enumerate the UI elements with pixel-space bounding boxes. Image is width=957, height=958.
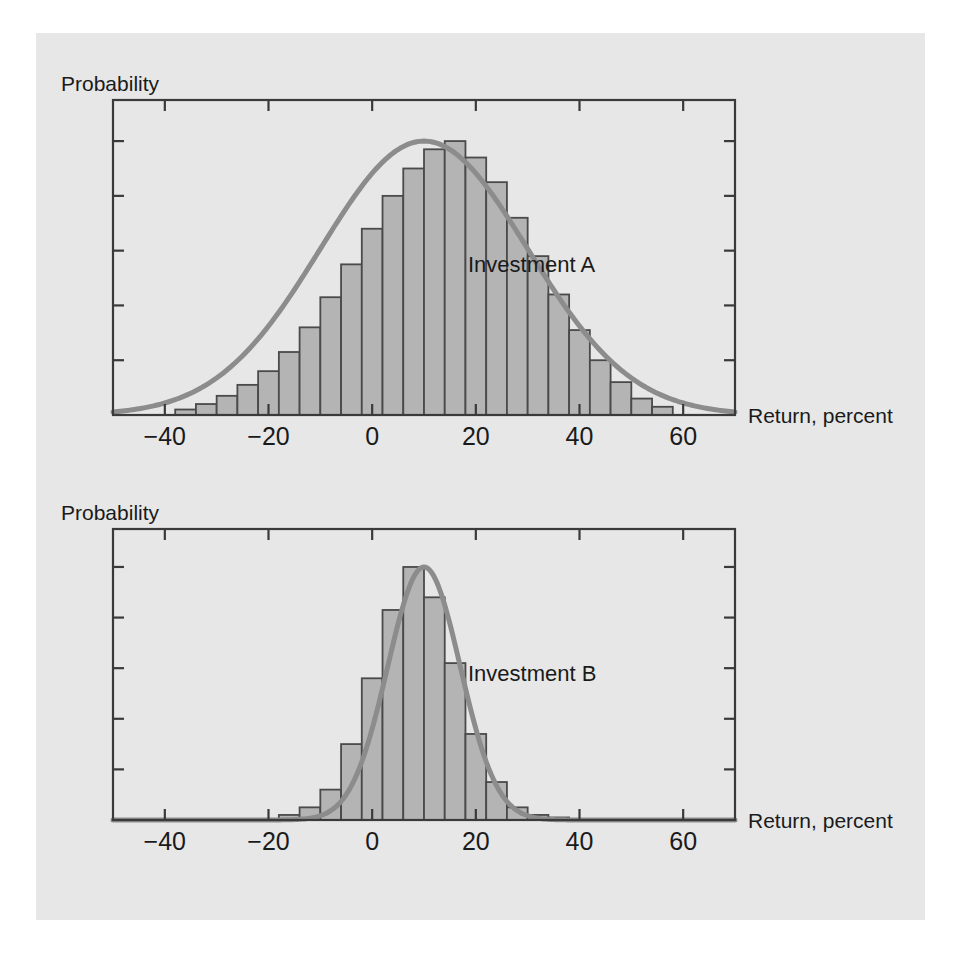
histogram-bar [424,149,445,415]
histogram-bar [300,327,321,415]
chart-investment-a: Probability −40−200204060 Return, percen… [61,72,893,450]
histogram-bar [445,663,466,820]
histogram-bar [445,141,466,415]
histogram-bar [548,294,569,415]
histogram-bar [403,168,424,415]
figure-root: Probability −40−200204060 Return, percen… [0,0,957,958]
x-axis-tick-label: −20 [247,422,289,450]
histogram-bar [403,567,424,820]
chart-b-bars [279,567,569,820]
x-axis-tick-label: 20 [462,422,490,450]
histogram-bar [320,297,341,415]
chart-a-series-label: Investment A [468,252,596,277]
x-axis-tick-label: 60 [669,827,697,855]
chart-b-y-axis-label: Probability [61,501,160,524]
chart-a-bars [175,141,673,415]
histogram-bar [279,352,300,415]
chart-a-y-axis-label: Probability [61,72,160,95]
histogram-bar [217,396,238,415]
histogram-bar [424,597,445,820]
scanned-page-panel: Probability −40−200204060 Return, percen… [36,33,925,920]
chart-b-x-tick-labels: −40−200204060 [144,827,697,855]
x-axis-tick-label: 40 [566,422,594,450]
histogram-bar [569,330,590,415]
chart-b-x-axis-label: Return, percent [748,809,893,832]
chart-b-series-label: Investment B [468,661,596,686]
chart-a-x-axis-label: Return, percent [748,404,893,427]
histogram-bar [362,229,383,415]
histogram-bar [486,182,507,415]
x-axis-tick-label: −20 [247,827,289,855]
histogram-bar [652,407,673,415]
x-axis-tick-label: 0 [365,827,379,855]
histogram-bar [383,196,404,415]
chart-investment-b: Probability −40−200204060 Return, percen… [61,501,893,855]
histogram-bar [611,382,632,415]
x-axis-tick-label: 0 [365,422,379,450]
histogram-bar [590,360,611,415]
histogram-bar [237,385,258,415]
x-axis-tick-label: −40 [144,827,186,855]
histogram-bar [631,399,652,415]
histogram-bar [465,158,486,415]
histogram-bar [341,264,362,415]
x-axis-tick-label: 40 [566,827,594,855]
x-axis-tick-label: 20 [462,827,490,855]
charts-svg-canvas: Probability −40−200204060 Return, percen… [36,33,925,920]
x-axis-tick-label: −40 [144,422,186,450]
x-axis-tick-label: 60 [669,422,697,450]
chart-a-x-tick-labels: −40−200204060 [144,422,697,450]
histogram-bar [196,404,217,415]
